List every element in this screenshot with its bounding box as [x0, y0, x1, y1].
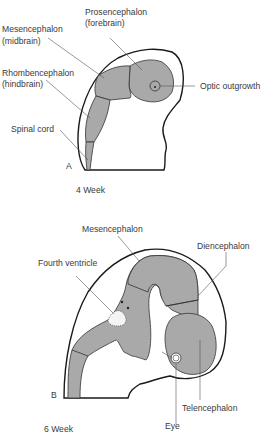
label-diencephalon: Diencephalon	[197, 241, 250, 251]
label-prosencephalon: Prosencephalon	[85, 7, 147, 17]
label-b-mesencephalon: Mesencephalon	[82, 224, 143, 234]
panel-a-letter: A	[66, 161, 72, 171]
label-telencephalon: Telencephalon	[182, 403, 237, 413]
label-optic-outgrowth: Optic outgrowth	[200, 81, 260, 91]
panel-b-caption: 6 Week	[44, 424, 73, 434]
label-prosencephalon-sub: (forebrain)	[85, 18, 125, 28]
panel-b-eye	[171, 353, 181, 363]
panel-a-caption: 4 Week	[76, 185, 105, 195]
embryo-brain-diagram	[0, 0, 276, 446]
panel-a-optic-dot	[154, 86, 156, 88]
label-fourth-ventricle: Fourth ventricle	[38, 258, 97, 268]
label-spinal-cord: Spinal cord	[11, 124, 54, 134]
panel-a-mesencephalon	[95, 66, 131, 100]
label-rhombencephalon: Rhombencephalon	[2, 68, 74, 78]
label-mesencephalon-sub: (midbrain)	[2, 36, 41, 46]
label-eye: Eye	[165, 421, 180, 431]
panel-a-4-week	[46, 38, 195, 170]
panel-b-dot	[127, 307, 129, 309]
panel-a-prosencephalon	[129, 60, 174, 102]
panel-b-telencephalon	[165, 313, 216, 374]
label-rhombencephalon-sub: (hindbrain)	[2, 79, 43, 89]
panel-b-letter: B	[51, 390, 57, 400]
label-mesencephalon: Mesencephalon	[2, 24, 63, 34]
panel-b-dot	[121, 301, 123, 303]
